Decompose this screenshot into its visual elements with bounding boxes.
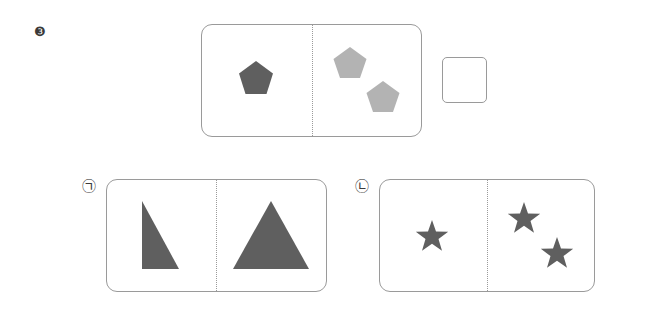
star-icon [416, 220, 448, 251]
star-icon [541, 237, 573, 268]
star-icon [508, 202, 540, 233]
option-2-shapes [0, 0, 645, 311]
